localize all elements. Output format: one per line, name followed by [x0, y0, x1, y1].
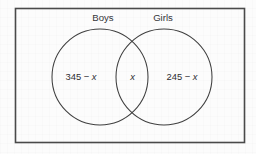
region-girls-variable: x — [192, 71, 198, 82]
region-text-girls-only: 245 − x — [166, 71, 197, 82]
region-boys-variable: x — [91, 71, 97, 82]
region-text-intersection: x — [129, 71, 135, 82]
venn-diagram-figure: Boys Girls 345 − x x 245 − x — [0, 0, 256, 154]
region-text-boys-only: 345 − x — [65, 71, 96, 82]
set-label-girls: Girls — [153, 12, 173, 23]
region-boys-expression: 345 − — [65, 71, 91, 82]
figure-canvas: Boys Girls 345 − x x 245 − x — [0, 0, 256, 154]
region-girls-expression: 245 − — [166, 71, 192, 82]
region-intersection-variable: x — [129, 71, 135, 82]
set-label-boys: Boys — [92, 12, 114, 23]
